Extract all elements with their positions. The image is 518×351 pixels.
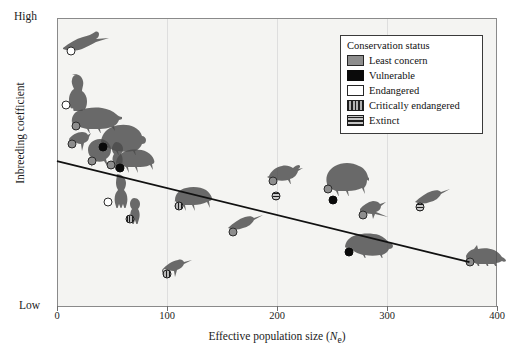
data-point-brown-bear bbox=[71, 122, 80, 131]
x-axis-tick-mark bbox=[167, 306, 168, 311]
x-axis-tick-label: 200 bbox=[269, 310, 285, 321]
legend-item-label: Extinct bbox=[369, 115, 399, 126]
y-axis-title: Inbreeding coefficient bbox=[14, 63, 26, 203]
x-axis-tick-label: 0 bbox=[54, 310, 59, 321]
legend-item: Least concern bbox=[347, 53, 477, 68]
x-axis-tick-label: 400 bbox=[489, 310, 505, 321]
x-axis-tick-mark bbox=[57, 306, 58, 311]
data-point-chimpanzee bbox=[61, 100, 70, 109]
data-point-egret-low bbox=[163, 269, 172, 278]
legend-item-label: Vulnerable bbox=[369, 70, 415, 81]
inbreeding-population-scatter-figure: High Low Inbreeding coefficient Effectiv… bbox=[0, 0, 518, 351]
legend-title: Conservation status bbox=[347, 40, 477, 51]
x-axis-title-text: Effective population size (Ne) bbox=[208, 330, 345, 342]
data-point-elephant-dot bbox=[329, 196, 338, 205]
legend-item-list: Least concernVulnerableEndangeredCritica… bbox=[347, 53, 477, 128]
data-point-heron-mid bbox=[229, 227, 238, 236]
data-point-macaw bbox=[125, 214, 134, 223]
legend-swatch-icon bbox=[347, 85, 364, 96]
legend-swatch-icon bbox=[347, 55, 364, 66]
y-axis-high-label: High bbox=[14, 10, 37, 22]
x-axis-tick-mark bbox=[277, 306, 278, 311]
y-axis-low-label: Low bbox=[19, 299, 40, 311]
gridline-vertical bbox=[167, 19, 168, 306]
legend-swatch-icon bbox=[347, 70, 364, 81]
data-point-heron bbox=[68, 139, 77, 148]
data-point-parrot-a bbox=[106, 161, 115, 170]
legend-item-label: Least concern bbox=[369, 55, 428, 66]
data-point-egret bbox=[67, 47, 76, 56]
data-point-bison-a bbox=[115, 164, 124, 173]
x-axis-tick-mark bbox=[387, 306, 388, 311]
gridline-vertical bbox=[277, 19, 278, 306]
x-axis-title: Effective population size (Ne) bbox=[57, 330, 497, 345]
x-axis-tick-mark bbox=[497, 306, 498, 311]
data-point-duck bbox=[268, 177, 277, 186]
legend-item: Extinct bbox=[347, 113, 477, 128]
data-point-giant-panda bbox=[99, 142, 108, 151]
data-point-lion bbox=[88, 157, 97, 166]
data-point-buffalo bbox=[175, 201, 184, 210]
x-axis-tick-label: 300 bbox=[379, 310, 395, 321]
legend-item-label: Critically endangered bbox=[369, 100, 460, 111]
legend-item-label: Endangered bbox=[369, 85, 419, 96]
legend-swatch-icon bbox=[347, 115, 364, 126]
data-point-heron-right bbox=[416, 203, 425, 212]
legend-swatch-icon bbox=[347, 100, 364, 111]
legend-item: Critically endangered bbox=[347, 98, 477, 113]
y-axis-title-text: Inbreeding coefficient bbox=[14, 82, 26, 184]
data-point-elephant bbox=[323, 184, 332, 193]
legend-item: Vulnerable bbox=[347, 68, 477, 83]
data-point-gorilla bbox=[103, 197, 112, 206]
legend: Conservation status Least concernVulnera… bbox=[340, 35, 483, 134]
data-point-polar-bear bbox=[344, 248, 353, 257]
legend-item: Endangered bbox=[347, 83, 477, 98]
data-point-duck-extinct bbox=[271, 191, 280, 200]
x-axis-tick-label: 100 bbox=[159, 310, 175, 321]
data-point-magpie bbox=[358, 210, 367, 219]
data-point-red-fox bbox=[465, 258, 474, 267]
